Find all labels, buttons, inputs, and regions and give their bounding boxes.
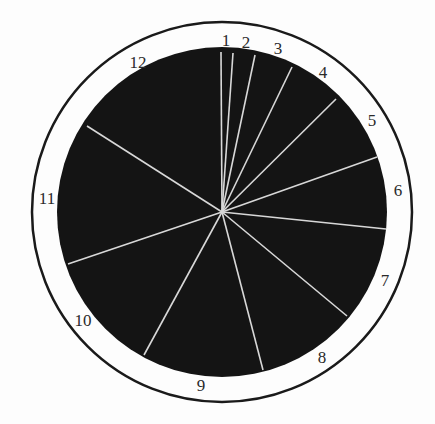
sector-label-5: 5 bbox=[368, 111, 377, 130]
sector-label-9: 9 bbox=[197, 376, 206, 395]
sector-label-1: 1 bbox=[222, 31, 231, 50]
sector-label-12: 12 bbox=[130, 53, 147, 72]
sector-label-8: 8 bbox=[318, 348, 327, 367]
sector-label-6: 6 bbox=[394, 181, 403, 200]
radial-sector-chart: 123456789101112 bbox=[0, 0, 435, 424]
sector-label-4: 4 bbox=[319, 63, 328, 82]
sector-label-10: 10 bbox=[75, 311, 92, 330]
sector-label-2: 2 bbox=[242, 33, 251, 52]
sector-label-7: 7 bbox=[381, 271, 390, 290]
sector-label-11: 11 bbox=[39, 189, 55, 208]
chart-canvas: 123456789101112 bbox=[0, 0, 435, 424]
sector-divider-1 bbox=[221, 52, 222, 212]
sector-label-3: 3 bbox=[274, 39, 283, 58]
